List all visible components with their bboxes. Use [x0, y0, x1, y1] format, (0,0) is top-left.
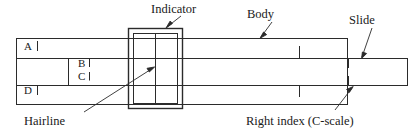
arrowhead-slide [362, 52, 367, 59]
slide-rule-figure: Indicator Body Slide Hairline Right inde… [0, 0, 418, 132]
scale-label-d: D [24, 85, 32, 96]
callout-hairline: Hairline [24, 115, 65, 128]
callout-right-index: Right index (C-scale) [246, 115, 354, 128]
callout-slide: Slide [349, 14, 375, 27]
leader-lines [84, 16, 372, 112]
scale-label-c: C [78, 71, 85, 82]
callout-indicator: Indicator [151, 3, 196, 16]
callout-body: Body [247, 8, 274, 21]
leader-hairline [84, 68, 153, 112]
arrowhead-body [260, 32, 267, 38]
tick-marks [38, 41, 349, 97]
arrowhead-indicator [166, 21, 172, 28]
scale-label-a: A [24, 41, 32, 52]
scale-label-b: B [78, 58, 85, 69]
